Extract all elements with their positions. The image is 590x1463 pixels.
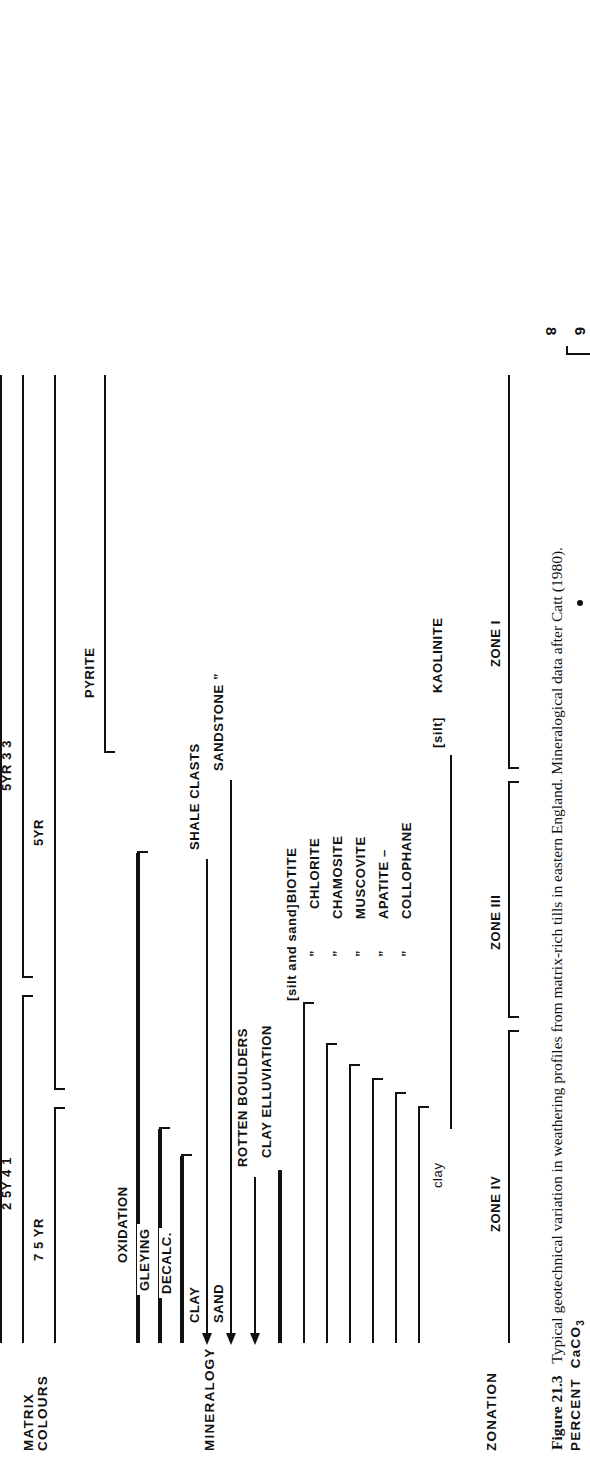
- caco3-tick-label: 6: [572, 327, 589, 335]
- process-label: DECALC.: [159, 1228, 174, 1298]
- panel-title-matrix-colours: MATRIX COLOURS: [22, 1375, 50, 1451]
- mineralogy-right-label: CLAY: [187, 1283, 202, 1326]
- process-label: GLEYING: [137, 1224, 152, 1295]
- mineralogy-left-label: SHALE CLASTS: [187, 743, 202, 850]
- mineralogy-left-label: COLLOPHANE: [399, 822, 414, 919]
- mineralogy-row-kaolinite: KAOLINITE [silt] clay: [440, 0, 466, 1463]
- figure-number: Figure 21.3: [548, 1375, 565, 1450]
- arrow-left-icon: [224, 1331, 238, 1345]
- mineralogy-left-label: SANDSTONE ”: [211, 673, 226, 771]
- mineralogy-left-label: CHLORITE: [307, 838, 322, 909]
- panel-mineralogy: MINERALOGY SHALE CLASTS CLAY SANDSTONE ”…: [196, 0, 426, 1463]
- mineralogy-right-label: ”: [376, 950, 391, 957]
- zone-label: ZONE III: [488, 889, 503, 956]
- matrix-colour-label: 5YR: [31, 819, 46, 846]
- mineralogy-right-label: ”: [330, 950, 345, 957]
- zone-label: ZONE IV: [488, 1170, 503, 1238]
- depth-axis: 0 1 2 3 4 5 6 7 DEPTH m: [0, 0, 1, 1463]
- mineralogy-left-label: ROTTEN BOULDERS: [235, 1028, 250, 1167]
- process-label: OXIDATION: [115, 1182, 130, 1267]
- panel-matrix-colours: MATRIX COLOURS 7 5 YR 5YR 2 5Y 4 1 5YR 3…: [6, 0, 80, 1463]
- figure-plot-area: MATRIX COLOURS 7 5 YR 5YR 2 5Y 4 1 5YR 3…: [0, 0, 590, 1463]
- panel-weathering-processes: PYRITE OXIDATION GLEYING DECALC.: [92, 0, 184, 1463]
- mineralogy-left-label: CLAY ELLUVIATION: [259, 1025, 274, 1158]
- caco3-point: [577, 600, 583, 606]
- mineralogy-left-label: CHAMOSITE: [330, 836, 345, 919]
- process-label: PYRITE: [82, 642, 97, 703]
- panel-zonation: ZONATION ZONE IV ZONE III ZONE I: [480, 0, 532, 1463]
- mineralogy-left-label: APATITE –: [376, 849, 391, 919]
- figure-caption: Figure 21.3 Typical geotechnical variati…: [548, 20, 566, 1450]
- mineralogy-right-label: [silt]: [430, 717, 445, 748]
- panel-title-caco3: PERCENT CaCO3: [568, 1319, 588, 1451]
- arrow-left-icon: [200, 1331, 214, 1345]
- mineralogy-right-label: [silt and sand]: [284, 904, 299, 1001]
- panel-title-mineralogy: MINERALOGY: [202, 1347, 217, 1451]
- panel-title-zonation: ZONATION: [484, 1372, 499, 1451]
- matrix-colour-label: 7 5 YR: [31, 1218, 46, 1261]
- mineralogy-left-label: BIOTITE: [284, 848, 299, 903]
- mineralogy-extra-label: clay: [430, 1162, 445, 1188]
- zone-label: ZONE I: [488, 614, 503, 673]
- mineralogy-right-label: ”: [399, 950, 414, 957]
- matrix-colour-label: 5YR 3 3: [0, 740, 14, 791]
- mineralogy-left-label: MUSCOVITE: [353, 836, 368, 919]
- arrow-left-icon: [248, 1331, 262, 1345]
- matrix-colour-label: 2 5Y 4 1: [0, 1157, 14, 1210]
- mineralogy-right-label: SAND: [211, 1281, 226, 1326]
- mineralogy-right-label: ”: [353, 950, 368, 957]
- mineralogy-right-label: ”: [307, 950, 322, 957]
- figure-caption-text: Typical geotechnical variation in weathe…: [548, 547, 565, 1364]
- mineralogy-left-label: KAOLINITE: [430, 618, 445, 693]
